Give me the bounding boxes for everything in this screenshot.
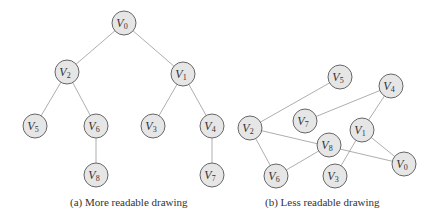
node-V7: V7	[200, 163, 224, 187]
node-V7: V7	[293, 109, 317, 133]
node-V2: V2	[238, 116, 262, 140]
node-V1: V1	[171, 62, 195, 86]
node-V2: V2	[55, 60, 79, 84]
node-V6: V6	[264, 164, 288, 188]
node-V4: V4	[200, 114, 224, 138]
edge-V7-V4	[305, 86, 391, 121]
node-V0: V0	[392, 152, 416, 176]
node-V6: V6	[84, 114, 108, 138]
node-V8: V8	[317, 133, 341, 157]
graph-b: V5V4V2V7V1V8V0V6V3	[238, 65, 416, 188]
node-V0: V0	[112, 11, 136, 35]
node-V4: V4	[379, 74, 403, 98]
node-V3: V3	[323, 164, 347, 188]
graph-canvas: V0V2V1V5V6V3V4V8V7V5V4V2V7V1V8V0V6V3	[0, 0, 430, 220]
caption-b: (b) Less readable drawing	[265, 196, 380, 208]
node-V1: V1	[350, 118, 374, 142]
node-V3: V3	[141, 114, 165, 138]
caption-a: (a) More readable drawing	[70, 196, 188, 208]
node-V8: V8	[84, 163, 108, 187]
graph-a: V0V2V1V5V6V3V4V8V7	[23, 11, 224, 187]
node-V5: V5	[23, 114, 47, 138]
node-V5: V5	[328, 65, 352, 89]
